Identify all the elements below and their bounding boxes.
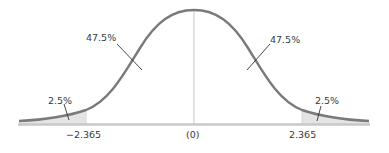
tick-label-left: −2.365 (66, 129, 101, 140)
tick-label-center: (0) (186, 129, 199, 140)
t-distribution-chart: 47.5% 47.5% 2.5% 2.5% −2.365 (0) 2.365 (0, 0, 389, 153)
tick-label-right: 2.365 (289, 129, 316, 140)
left-center-percent-label: 47.5% (86, 32, 116, 43)
right-tail-percent-label: 2.5% (315, 95, 339, 106)
left-tail-percent-label: 2.5% (48, 95, 72, 106)
right-center-percent-label: 47.5% (270, 34, 300, 45)
